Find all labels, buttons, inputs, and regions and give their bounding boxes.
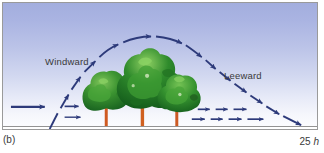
scale-distance-value: 25: [300, 136, 311, 147]
figure-panel-b: Windward Leeward (b) 25 h: [0, 0, 324, 153]
tree-group: [82, 48, 200, 126]
scale-unit-symbol: h: [313, 136, 319, 147]
diagram-frame: Windward Leeward: [2, 2, 318, 130]
leeward-label: Leeward: [224, 71, 262, 81]
windward-label: Windward: [45, 57, 89, 67]
scale-distance-label: 25 h: [300, 136, 319, 147]
panel-letter-label: (b): [3, 134, 15, 145]
